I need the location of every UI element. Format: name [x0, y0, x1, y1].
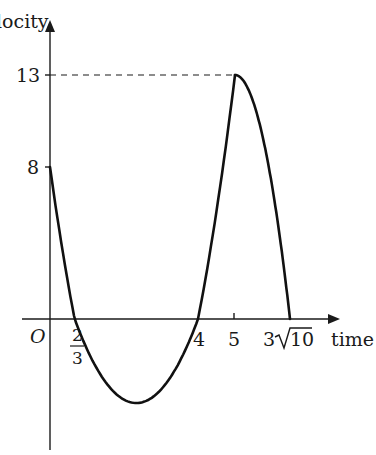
x-tick-label-4: 4: [193, 328, 205, 350]
y-tick-label-13: 13: [16, 64, 40, 86]
root-coefficient: 3: [263, 328, 275, 350]
x-tick-label-5: 5: [228, 328, 240, 350]
x-tick-label-two-thirds: 2 3: [70, 325, 84, 368]
origin-label: O: [30, 325, 46, 347]
x-tick-label-3-root-10: 3 10: [263, 328, 314, 350]
x-axis-label: time: [331, 328, 374, 350]
x-axis-arrow: [328, 314, 340, 324]
y-tick-label-8: 8: [27, 156, 39, 178]
fraction-denominator: 3: [72, 348, 83, 368]
y-axis-label: velocity: [0, 10, 49, 32]
root-radicand: 10: [290, 328, 314, 350]
velocity-curve-descent: [235, 75, 290, 319]
velocity-time-chart: velocity velocity time O 13 8 4 5 2 3 3 …: [0, 0, 376, 455]
